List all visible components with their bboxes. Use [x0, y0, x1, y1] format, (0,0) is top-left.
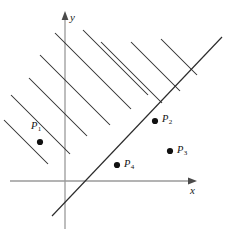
hatch-line	[101, 42, 162, 103]
point-dot-p3	[167, 148, 173, 154]
point-label-p3-base: P	[177, 144, 183, 155]
point-label-p3: P3	[177, 145, 187, 156]
geometry-figure: y x P1 P2 P3 P4	[0, 0, 233, 239]
point-label-p2-base: P	[162, 113, 168, 124]
point-label-p4-subscript: 4	[131, 163, 135, 171]
point-label-p2-subscript: 2	[169, 118, 173, 126]
point-dot-p2	[152, 118, 158, 124]
point-label-p2: P2	[162, 114, 172, 125]
hatch-line	[55, 33, 131, 109]
hatch-line	[83, 30, 148, 95]
hatch-group	[4, 30, 197, 164]
point-dot-p4	[114, 162, 120, 168]
y-axis-label: y	[70, 12, 75, 23]
point-label-p1-base: P	[31, 120, 37, 131]
point-dot-p1	[37, 139, 43, 145]
point-label-p3-subscript: 3	[184, 149, 188, 157]
point-label-p4-base: P	[124, 158, 130, 169]
point-label-p1-subscript: 1	[38, 125, 42, 133]
y-axis-arrowhead	[62, 11, 69, 20]
x-axis-label: x	[190, 185, 195, 196]
point-label-p4: P4	[124, 159, 134, 170]
point-label-p1: P1	[31, 121, 41, 132]
hatch-line	[40, 55, 110, 125]
hatch-line	[131, 42, 180, 91]
